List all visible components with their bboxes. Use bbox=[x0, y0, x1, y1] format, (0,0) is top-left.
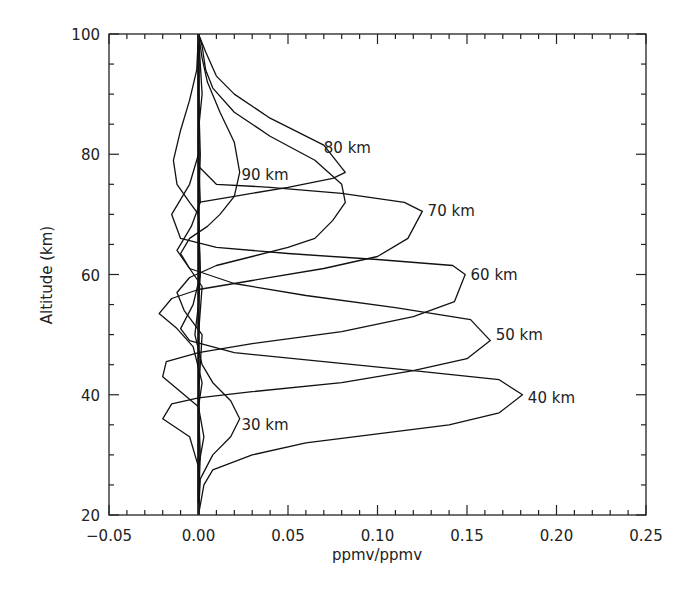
curve-label: 60 km bbox=[471, 266, 518, 284]
curve-label: 30 km bbox=[241, 416, 288, 434]
x-tick-label: 0.00 bbox=[182, 527, 215, 545]
x-tick-label: 0.10 bbox=[361, 527, 394, 545]
plot-curves bbox=[159, 34, 522, 515]
curve-label: 90 km bbox=[241, 166, 288, 184]
x-tick-label: 0.05 bbox=[271, 527, 304, 545]
y-tick-labels: 20406080100 bbox=[71, 26, 100, 525]
curve-label: 80 km bbox=[324, 139, 371, 157]
x-tick-labels: −0.050.000.050.100.150.200.25 bbox=[86, 527, 663, 545]
curve-label: 50 km bbox=[496, 326, 543, 344]
curve-label: 70 km bbox=[428, 202, 475, 220]
x-tick-label: 0.25 bbox=[629, 527, 662, 545]
y-tick-label: 40 bbox=[81, 387, 100, 405]
y-tick-label: 60 bbox=[81, 267, 100, 285]
y-tick-label: 100 bbox=[71, 26, 100, 44]
curve-labels: 30 km40 km50 km60 km70 km80 km90 km bbox=[241, 139, 575, 434]
x-tick-label: 0.20 bbox=[540, 527, 573, 545]
curve-60-km bbox=[163, 34, 466, 503]
y-axis-title: Altitude (km) bbox=[38, 226, 56, 324]
curve-label: 40 km bbox=[528, 389, 575, 407]
chart: −0.050.000.050.100.150.200.25 2040608010… bbox=[0, 0, 695, 600]
y-tick-label: 80 bbox=[81, 146, 100, 164]
y-ticks bbox=[109, 34, 646, 515]
x-axis-title: ppmv/ppmv bbox=[332, 546, 422, 564]
x-tick-label: 0.15 bbox=[450, 527, 483, 545]
curve-aux-7 bbox=[173, 34, 198, 214]
x-ticks bbox=[109, 34, 646, 515]
plot-frame bbox=[109, 34, 646, 515]
y-tick-label: 20 bbox=[81, 507, 100, 525]
x-tick-label: −0.05 bbox=[86, 527, 132, 545]
